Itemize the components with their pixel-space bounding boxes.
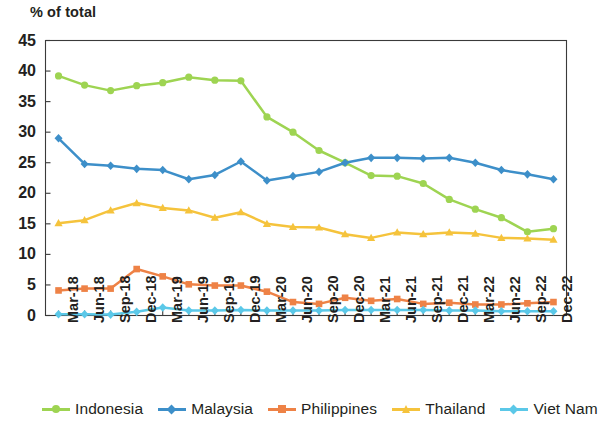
x-axis-tick-label: Dec-22: [559, 275, 575, 323]
data-point-marker: [549, 175, 557, 184]
y-axis-tick-label: 15: [2, 215, 36, 233]
series-thailand: [54, 199, 557, 243]
data-point-marker: [55, 310, 63, 319]
legend-label: Indonesia: [75, 400, 143, 418]
data-point-marker: [315, 147, 322, 154]
data-point-marker: [107, 310, 115, 319]
series-indonesia: [55, 72, 557, 235]
legend-swatch-icon: [268, 402, 296, 416]
legend-marker: [402, 405, 410, 413]
data-point-marker: [368, 298, 375, 305]
data-point-marker: [133, 308, 141, 317]
data-point-marker: [290, 299, 297, 306]
legend-item-viet-nam[interactable]: Viet Nam: [500, 400, 597, 418]
data-point-marker: [446, 299, 453, 306]
y-axis-tick-label: 30: [2, 123, 36, 141]
data-point-marker: [211, 171, 219, 180]
data-point-marker: [107, 285, 114, 292]
data-point-marker: [342, 294, 349, 301]
y-axis-tick-label: 10: [2, 245, 36, 263]
data-point-marker: [107, 161, 115, 170]
legend-marker: [278, 405, 286, 413]
data-point-marker: [523, 170, 531, 179]
data-point-marker: [133, 266, 140, 273]
x-axis-tick-label: Mar-18: [65, 276, 81, 323]
data-point-marker: [159, 166, 167, 175]
legend-label: Thailand: [425, 400, 485, 418]
data-point-marker: [471, 158, 479, 167]
data-point-marker: [315, 306, 323, 315]
data-point-marker: [264, 288, 271, 295]
data-point-marker: [55, 72, 62, 79]
data-point-marker: [81, 285, 88, 292]
data-point-marker: [549, 307, 557, 316]
series-line: [59, 138, 554, 180]
data-point-marker: [159, 303, 167, 312]
legend-item-philippines[interactable]: Philippines: [268, 400, 377, 418]
chart-legend: IndonesiaMalaysiaPhilippinesThailandViet…: [0, 396, 571, 422]
x-axis-tick-label: Jun-21: [403, 276, 419, 323]
legend-item-indonesia[interactable]: Indonesia: [42, 400, 143, 418]
data-point-marker: [211, 306, 219, 315]
data-point-marker: [133, 165, 141, 174]
data-point-marker: [237, 77, 244, 84]
x-axis-tick-label: Mar-20: [273, 276, 289, 323]
x-axis-tick-label: Dec-20: [351, 275, 367, 323]
y-axis-tick-label: 40: [2, 62, 36, 80]
y-axis-tick-label: 20: [2, 184, 36, 202]
data-point-marker: [394, 296, 401, 303]
y-axis-tick-label: 5: [2, 276, 36, 294]
data-point-marker: [107, 87, 114, 94]
data-point-marker: [212, 282, 219, 289]
x-axis-tick-label: Sep-22: [533, 275, 549, 323]
data-point-marker: [419, 154, 427, 163]
data-point-marker: [289, 172, 297, 181]
legend-swatch-icon: [42, 402, 70, 416]
x-axis-tick-label: Jun-18: [91, 276, 107, 323]
x-axis-tick-label: Sep-18: [117, 275, 133, 323]
data-point-marker: [445, 154, 453, 163]
data-point-marker: [289, 306, 297, 315]
data-point-marker: [81, 82, 88, 89]
data-point-marker: [185, 306, 193, 315]
data-point-marker: [263, 113, 270, 120]
data-point-marker: [81, 310, 89, 319]
plot-frame: [46, 41, 567, 316]
x-axis-tick-label: Dec-21: [455, 275, 471, 323]
data-point-marker: [289, 129, 296, 136]
data-point-marker: [159, 273, 166, 280]
data-point-marker: [498, 214, 505, 221]
data-point-marker: [393, 154, 401, 163]
legend-item-thailand[interactable]: Thailand: [392, 400, 485, 418]
data-point-marker: [159, 79, 166, 86]
data-point-marker: [445, 306, 453, 315]
y-axis-tick-label: 0: [2, 307, 36, 325]
series-line: [59, 203, 554, 240]
data-point-marker: [394, 173, 401, 180]
legend-marker: [509, 404, 519, 414]
y-axis-tick-label: 45: [2, 32, 36, 50]
legend-label: Philippines: [301, 400, 377, 418]
data-point-marker: [367, 154, 375, 163]
data-point-marker: [237, 306, 245, 315]
data-point-marker: [315, 168, 323, 177]
data-point-marker: [420, 180, 427, 187]
data-point-marker: [368, 172, 375, 179]
data-point-marker: [523, 307, 531, 316]
data-point-marker: [393, 306, 401, 315]
data-point-marker: [185, 281, 192, 288]
data-point-marker: [316, 301, 323, 308]
series-line: [59, 76, 554, 232]
legend-item-malaysia[interactable]: Malaysia: [158, 400, 253, 418]
data-point-marker: [133, 82, 140, 89]
data-point-marker: [263, 306, 271, 315]
x-axis-tick-label: Mar-21: [377, 276, 393, 323]
legend-swatch-icon: [500, 402, 528, 416]
legend-swatch-icon: [158, 402, 186, 416]
data-point-marker: [524, 228, 531, 235]
x-axis-tick-label: Jun-22: [507, 276, 523, 323]
data-point-marker: [498, 301, 505, 308]
data-point-marker: [55, 287, 62, 294]
legend-swatch-icon: [392, 402, 420, 416]
data-point-marker: [472, 206, 479, 213]
